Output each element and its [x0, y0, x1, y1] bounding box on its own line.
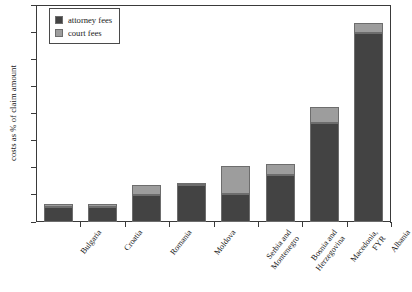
- bar-segment-attorney-fees: [354, 33, 383, 222]
- x-tick-mark: [391, 222, 392, 227]
- bar-segment-court-fees: [310, 107, 339, 123]
- bar-segment-court-fees: [221, 166, 250, 193]
- legend-label-court-fees: court fees: [68, 28, 102, 38]
- bar-segment-attorney-fees: [221, 194, 250, 222]
- bar-group: [88, 204, 117, 222]
- bar-segment-attorney-fees: [88, 207, 117, 222]
- bar-group: [354, 23, 383, 222]
- x-tick-mark: [214, 222, 215, 227]
- bar-segment-court-fees: [88, 204, 117, 207]
- x-axis-label: Romania: [168, 228, 194, 257]
- x-axis-label: Croatia: [122, 228, 144, 253]
- legend-label-attorney-fees: attorney fees: [68, 15, 112, 25]
- legend-item-court-fees: court fees: [55, 26, 112, 39]
- bar-segment-attorney-fees: [310, 123, 339, 222]
- bar-segment-attorney-fees: [44, 207, 73, 222]
- x-axis-label: Moldova: [213, 228, 239, 257]
- x-axis-labels: BulgariaCroatiaRomaniaMoldovaSerbia andM…: [36, 228, 391, 292]
- bar-segment-court-fees: [132, 185, 161, 194]
- x-axis-label-line: Romania: [168, 228, 193, 257]
- x-axis-label: Macedonia,FYR: [349, 228, 388, 270]
- legend-swatch-court-fees: [55, 29, 63, 37]
- bar-group: [266, 164, 295, 222]
- x-tick-mark: [80, 222, 81, 227]
- x-tick-mark: [347, 222, 348, 227]
- bar-segment-attorney-fees: [266, 175, 295, 222]
- x-axis-label-line: Croatia: [122, 228, 144, 253]
- bar-segment-court-fees: [44, 204, 73, 207]
- bar-segment-attorney-fees: [177, 185, 206, 222]
- x-tick-mark: [258, 222, 259, 227]
- bar-segment-court-fees: [266, 164, 295, 175]
- bar-group: [310, 107, 339, 222]
- x-axis-label: Bulgaria: [79, 228, 104, 256]
- bar-group: [44, 204, 73, 222]
- bar-segment-attorney-fees: [132, 195, 161, 222]
- y-axis-title: costs as % of claim amount: [8, 38, 18, 188]
- x-axis-label: Bosnia andHerzegovina: [306, 228, 347, 273]
- legend-swatch-attorney-fees: [55, 16, 63, 24]
- x-tick-mark: [302, 222, 303, 227]
- x-axis-label: Serbia andMontenegro: [261, 228, 301, 271]
- bar-segment-court-fees: [177, 183, 206, 186]
- x-tick-mark: [169, 222, 170, 227]
- bar-group: [132, 185, 161, 222]
- x-axis-label-line: Bulgaria: [79, 228, 103, 256]
- x-tick-mark: [125, 222, 126, 227]
- chart-legend: attorney fees court fees: [49, 8, 120, 44]
- x-axis-label-line: Moldova: [213, 228, 238, 257]
- bar-group: [177, 183, 206, 222]
- x-axis-label: Albania: [389, 228, 412, 254]
- x-axis-label-line: Albania: [389, 228, 412, 254]
- bar-group: [221, 166, 250, 222]
- legend-item-attorney-fees: attorney fees: [55, 13, 112, 26]
- bar-segment-court-fees: [354, 23, 383, 34]
